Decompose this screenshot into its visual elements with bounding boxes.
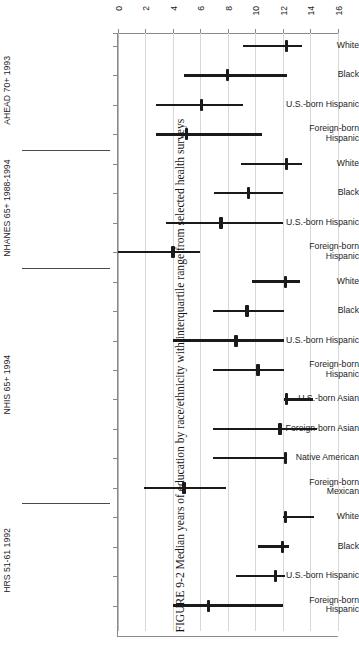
figure-page: 0246810121416 WhiteBlackU.S.-born Hispan… (0, 0, 359, 653)
category-label: U.S.-born Hispanic (241, 218, 359, 228)
category-tick (113, 458, 118, 459)
median-marker (219, 217, 222, 229)
category-tick (113, 429, 118, 430)
category-label: Black (241, 306, 359, 316)
category-label: U.S.-born Asian (241, 394, 359, 404)
value-axis-line (113, 33, 338, 34)
category-tick (113, 547, 118, 548)
category-tick (113, 193, 118, 194)
group-separator (22, 268, 110, 269)
group-label: AHEAD 70+ 1993 (2, 31, 12, 149)
median-marker (234, 335, 237, 347)
category-tick (113, 282, 118, 283)
category-label: White (241, 277, 359, 287)
tick-label-0: 0 (114, 6, 124, 11)
gridline-0 (118, 33, 119, 631)
category-label: Black (241, 188, 359, 198)
category-tick (113, 134, 118, 135)
category-tick (113, 399, 118, 400)
group-separator (22, 503, 110, 504)
tick-8 (228, 29, 229, 33)
category-label: Native American (241, 453, 359, 463)
tick-label-10: 10 (251, 6, 261, 16)
category-label: White (241, 512, 359, 522)
group-label: NHIS 65+ 1994 (2, 267, 12, 503)
gridline-6 (200, 33, 201, 631)
axis-bottom-line (117, 636, 338, 637)
gridline-2 (145, 33, 146, 631)
tick-label-16: 16 (334, 6, 344, 16)
tick-2 (145, 29, 146, 33)
category-tick (113, 370, 118, 371)
tick-label-2: 2 (141, 6, 151, 11)
category-tick (113, 606, 118, 607)
tick-label-12: 12 (279, 6, 289, 16)
category-label: White (241, 159, 359, 169)
tick-6 (200, 29, 201, 33)
category-label: Foreign-born Hispanic (241, 596, 359, 615)
tick-label-8: 8 (224, 6, 234, 11)
gridline-8 (228, 33, 229, 631)
category-tick (113, 75, 118, 76)
category-tick (113, 105, 118, 106)
category-label: Foreign-born Hispanic (241, 124, 359, 143)
tick-16 (338, 29, 339, 33)
median-marker (207, 600, 210, 612)
iqr-bar (118, 251, 200, 253)
tick-0 (118, 29, 119, 33)
tick-label-6: 6 (196, 6, 206, 11)
median-marker (226, 69, 229, 81)
category-label: U.S.-born Hispanic (241, 571, 359, 581)
tick-14 (310, 29, 311, 33)
group-separator (22, 150, 110, 151)
category-tick (113, 341, 118, 342)
group-label: NHANES 65+ 1988-1994 (2, 149, 12, 267)
tick-12 (283, 29, 284, 33)
category-tick (113, 223, 118, 224)
category-label: Foreign-born Hispanic (241, 360, 359, 379)
caption-text: FIGURE 9-2 Median years of education by … (174, 119, 187, 633)
category-label: Foreign-born Mexican (241, 478, 359, 497)
category-label: White (241, 41, 359, 51)
category-label: U.S.-born Hispanic (241, 336, 359, 346)
category-label: Black (241, 542, 359, 552)
category-label: Foreign-born Hispanic (241, 242, 359, 261)
median-marker (200, 99, 203, 111)
group-label: HRS 51-61 1992 (2, 502, 12, 620)
category-tick (113, 46, 118, 47)
tick-label-14: 14 (306, 6, 316, 16)
tick-10 (255, 29, 256, 33)
category-tick (113, 576, 118, 577)
category-label: Black (241, 70, 359, 80)
category-tick (113, 517, 118, 518)
category-label: U.S.-born Hispanic (241, 100, 359, 110)
category-tick (113, 488, 118, 489)
category-tick (113, 164, 118, 165)
figure-caption: FIGURE 9-2 Median years of education by … (174, 0, 187, 633)
category-label: Foreign-born Asian (241, 424, 359, 434)
category-tick (113, 311, 118, 312)
